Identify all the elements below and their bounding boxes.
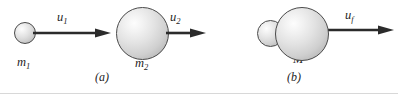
label-mass-m2: m2 [135, 57, 148, 70]
velocity-arrow-uf [327, 25, 394, 35]
panel-b-caption: (b) [287, 71, 301, 83]
label-u2-subscript: 2 [176, 16, 180, 26]
panel-a: u1 u2 m1 m2 (a) [0, 0, 210, 94]
physics-collision-figure: u1 u2 m1 m2 (a) uf M (b) [0, 0, 398, 94]
label-velocity-u1: u1 [57, 11, 68, 24]
panel-a-caption: (a) [95, 71, 109, 83]
sphere-merged-large [275, 7, 329, 61]
label-m2-base: m [135, 56, 144, 70]
label-mass-m1: m1 [17, 56, 30, 69]
label-u1-subscript: 1 [63, 16, 67, 26]
label-m2-subscript: 2 [144, 62, 148, 72]
label-m1-subscript: 1 [26, 61, 30, 71]
label-velocity-uf: uf [345, 9, 354, 22]
velocity-arrow-u1 [33, 28, 111, 38]
velocity-arrow-u2 [166, 28, 206, 38]
label-uf-subscript: f [351, 14, 353, 24]
label-m1-base: m [17, 55, 26, 69]
sphere-m2 [116, 7, 169, 60]
label-velocity-u2: u2 [170, 11, 181, 24]
panel-b: uf M (b) [210, 0, 398, 94]
